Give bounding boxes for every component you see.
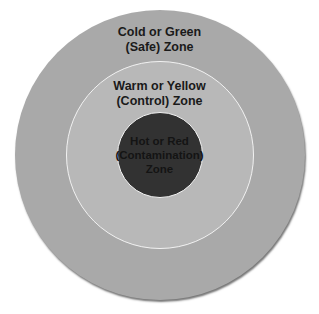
- hot-zone-label-line2: (Contamination): [0, 148, 319, 162]
- cold-zone-label-line2: (Safe) Zone: [0, 40, 319, 55]
- hot-zone-label: Hot or Red (Contamination) Zone: [0, 134, 319, 176]
- warm-zone-label-line2: (Control) Zone: [0, 94, 319, 109]
- cold-zone-label-line1: Cold or Green: [0, 25, 319, 40]
- warm-zone-label: Warm or Yellow (Control) Zone: [0, 79, 319, 109]
- warm-zone-label-line1: Warm or Yellow: [0, 79, 319, 94]
- hot-zone-label-line3: Zone: [0, 162, 319, 176]
- hot-zone-label-line1: Hot or Red: [0, 134, 319, 148]
- cold-zone-label: Cold or Green (Safe) Zone: [0, 25, 319, 55]
